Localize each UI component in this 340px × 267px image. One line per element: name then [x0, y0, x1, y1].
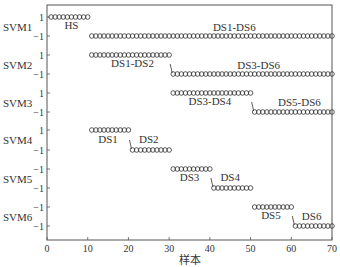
series-annotation: DS2 [139, 133, 159, 145]
transition-line [252, 102, 254, 111]
y-tick-label: −1 [33, 31, 44, 42]
y-tick-label: −1 [33, 69, 44, 80]
series-annotation: DS6 [302, 210, 322, 222]
transition-line [130, 140, 132, 149]
y-tick-label: 1 [39, 50, 44, 61]
y-tick-label: −1 [33, 107, 44, 118]
y-tick-label: −1 [33, 202, 44, 213]
x-tick-label: 60 [286, 243, 296, 254]
svm-row-label-svm4: SVM4 [3, 134, 33, 146]
series-annotation: DS1 [98, 133, 118, 145]
series-annotation: DS3-DS4 [188, 95, 231, 107]
series-annotation: DS1-DS2 [111, 57, 154, 69]
y-tick-label: −1 [33, 164, 44, 175]
svm-row-label-svm2: SVM2 [3, 59, 32, 71]
series-annotation: DS3 [180, 171, 200, 183]
y-tick-label: −1 [33, 183, 44, 194]
plot-frame [47, 5, 332, 240]
series-annotation: DS1-DS6 [213, 21, 256, 33]
y-tick-label: −1 [33, 221, 44, 232]
y-tick-label: 1 [39, 12, 44, 23]
y-tick-label: 1 [39, 125, 44, 136]
series-annotation: DS5 [261, 209, 281, 221]
x-tick-label: 50 [246, 243, 256, 254]
x-tick-label: 40 [205, 243, 215, 254]
series-annotation: DS3-DS6 [237, 59, 280, 71]
x-tick-label: 10 [83, 243, 93, 254]
svm-output-chart: 010203040506070样本1−1SVM11−1SVM21−1SVM31−… [0, 0, 340, 267]
x-tick-label: 70 [327, 243, 337, 254]
transition-line [292, 216, 294, 225]
x-tick-label: 30 [164, 243, 174, 254]
series-annotation: DS5-DS6 [278, 96, 321, 108]
transition-line [170, 64, 172, 73]
series-annotation: DS4 [220, 171, 240, 183]
y-tick-label: −1 [33, 145, 44, 156]
svm-row-label-svm5: SVM5 [3, 173, 33, 185]
svm-row-label-svm1: SVM1 [3, 21, 32, 33]
x-tick-label: 0 [45, 243, 50, 254]
plot-area: 010203040506070样本1−1SVM11−1SVM21−1SVM31−… [0, 0, 340, 267]
y-tick-label: 1 [39, 88, 44, 99]
series-annotation: HS [64, 19, 78, 31]
svm-row-label-svm6: SVM6 [3, 211, 33, 223]
x-axis-title: 样本 [179, 253, 201, 266]
transition-line [211, 178, 213, 187]
x-tick-label: 20 [123, 243, 133, 254]
svm-row-label-svm3: SVM3 [3, 97, 33, 109]
